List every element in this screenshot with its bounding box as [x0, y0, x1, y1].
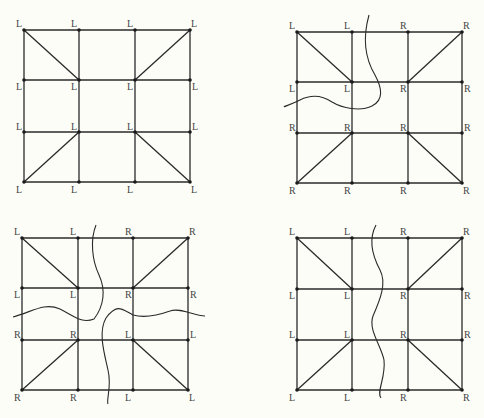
node-label: L: [289, 329, 295, 340]
grid-node: [295, 236, 299, 240]
node-label: L: [289, 290, 295, 301]
grid-node: [77, 78, 81, 82]
node-label: L: [125, 392, 131, 403]
node-label: L: [71, 184, 77, 195]
grid-node: [131, 286, 135, 290]
grid-diagonal: [24, 30, 79, 80]
node-label: R: [70, 329, 77, 340]
node-label: L: [127, 18, 133, 29]
node-label: L: [14, 226, 20, 237]
node-label: R: [463, 226, 470, 237]
grid-node: [350, 30, 354, 34]
grid-node: [77, 130, 81, 134]
grid-diagonal: [297, 340, 352, 390]
node-label: L: [127, 184, 133, 195]
grid-node: [22, 180, 26, 184]
node-label: L: [14, 289, 20, 300]
grid-node: [350, 181, 354, 185]
grid-diagonal: [408, 32, 462, 82]
grid-node: [406, 236, 410, 240]
grid-diagonal: [22, 238, 78, 288]
grid-node: [406, 388, 410, 392]
node-label: R: [289, 185, 296, 196]
node-label: R: [400, 83, 407, 94]
grid-node: [131, 236, 135, 240]
grid-diagonal: [22, 340, 78, 390]
grid-node: [350, 236, 354, 240]
node-label: L: [191, 184, 197, 195]
node-label: L: [289, 20, 295, 31]
grid-node: [77, 28, 81, 32]
node-label: L: [289, 392, 295, 403]
grid-node: [22, 130, 26, 134]
node-label: R: [400, 392, 407, 403]
grid-node: [133, 180, 137, 184]
grid-node: [406, 287, 410, 291]
node-label: R: [400, 185, 407, 196]
grid-node: [350, 338, 354, 342]
node-label: L: [71, 81, 77, 92]
node-label: L: [16, 18, 22, 29]
grid-panel-bottom-right: LLRRLLRRLLRRLLRR: [289, 225, 471, 403]
node-label: R: [70, 392, 77, 403]
node-label: R: [400, 329, 407, 340]
grid-node: [350, 388, 354, 392]
grid-node: [133, 130, 137, 134]
node-label: L: [71, 121, 77, 132]
node-label: L: [192, 121, 198, 132]
node-label: L: [189, 392, 195, 403]
grid-node: [76, 388, 80, 392]
node-label: R: [190, 289, 197, 300]
grid-node: [76, 236, 80, 240]
node-label: R: [189, 226, 196, 237]
grid-diagonal: [297, 32, 352, 82]
separating-curve: [372, 225, 385, 398]
node-label: L: [70, 289, 76, 300]
node-label: R: [463, 392, 470, 403]
node-label: R: [344, 122, 351, 133]
grid-node: [406, 80, 410, 84]
grid-node: [406, 181, 410, 185]
grid-diagonal: [135, 30, 190, 80]
grid-node: [295, 338, 299, 342]
grid-diagonal: [24, 132, 79, 182]
grid-node: [133, 28, 137, 32]
grid-diagonal: [408, 340, 462, 390]
node-label: R: [14, 329, 21, 340]
node-label: L: [344, 83, 350, 94]
grid-node: [20, 388, 24, 392]
node-label: R: [14, 392, 21, 403]
node-label: R: [400, 226, 407, 237]
node-label: R: [400, 290, 407, 301]
node-label: L: [125, 329, 131, 340]
grid-node: [20, 286, 24, 290]
grid-diagonal: [297, 133, 352, 183]
node-label: R: [463, 20, 470, 31]
node-label: L: [192, 81, 198, 92]
node-label: L: [344, 20, 350, 31]
diagram-canvas: LLLLLLLLLLLLLLLL LLRRLLRRRRRRRRRR LLRRLL…: [0, 0, 484, 418]
node-label: R: [464, 329, 471, 340]
grid-node: [295, 131, 299, 135]
grid-diagonal: [408, 133, 462, 183]
node-label: L: [16, 81, 22, 92]
node-label: R: [464, 290, 471, 301]
node-label: L: [190, 329, 196, 340]
grid-node: [406, 338, 410, 342]
node-label: R: [463, 185, 470, 196]
grid-node: [20, 236, 24, 240]
grid-diagonal: [133, 340, 188, 390]
grid-node: [350, 287, 354, 291]
node-label: L: [344, 329, 350, 340]
grid-node: [22, 28, 26, 32]
grid-node: [350, 131, 354, 135]
node-label: R: [344, 185, 351, 196]
node-label: R: [125, 289, 132, 300]
node-label: L: [127, 121, 133, 132]
grid-node: [20, 338, 24, 342]
grid-panel-bottom-left: LLRRLLRRRRLLRRLL: [13, 225, 205, 404]
grid-node: [295, 388, 299, 392]
grid-node: [22, 78, 26, 82]
node-label: R: [125, 226, 132, 237]
node-label: L: [289, 83, 295, 94]
